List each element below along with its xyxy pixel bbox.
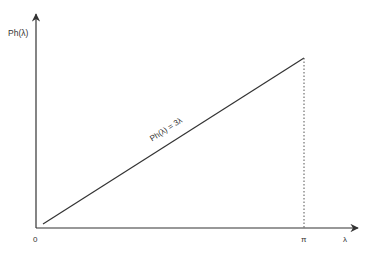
diagram-canvas [0,0,381,256]
phase-diagram: Ph(λ) 0 π λ Ph(λ) = 3λ [0,0,381,256]
y-axis-label: Ph(λ) [8,29,28,38]
phase-line [43,58,304,224]
origin-label: 0 [33,236,37,244]
x-axis-label: λ [343,236,347,244]
pi-tick-label: π [301,236,307,244]
